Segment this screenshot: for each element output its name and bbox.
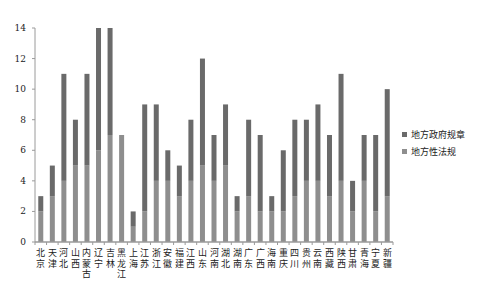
x-tick-label: 江 [152,259,161,269]
y-tick-label: 14 [15,23,27,33]
x-tick-label: 徽 [163,258,172,269]
stacked-bar-chart: 02468101214 北京天津河北山西内蒙古辽宁吉林黑龙江上海江苏浙江安徽福建… [0,0,487,295]
bar-segment-gov-regulations [246,120,251,196]
x-tick-label: 津 [48,259,57,269]
bar-segment-gov-regulations [177,166,182,197]
x-tick-label: 山 [71,248,80,258]
x-tick-label: 吉 [106,248,115,258]
legend-swatch-light [402,149,407,154]
bar-segment-local-laws [258,211,263,242]
legend-item-local-laws: 地方性法规 [402,146,456,157]
bar-segment-local-laws [246,196,251,242]
x-tick-label: 肃 [348,258,357,269]
bar-segment-gov-regulations [362,135,367,181]
x-tick-label: 西 [337,259,346,269]
bar-segment-local-laws [165,181,170,242]
bar-segment-gov-regulations [269,196,274,211]
bar-segment-gov-regulations [339,74,344,181]
bar-segment-local-laws [61,181,66,242]
bar-segment-local-laws [373,211,378,242]
x-tick-label: 西 [325,248,334,258]
x-tick-label: 新 [383,247,392,258]
x-tick-label: 河 [210,247,219,258]
bar-segment-gov-regulations [258,135,263,211]
bar-segment-gov-regulations [73,120,78,166]
bar-黑龙江 [119,135,124,242]
bars [38,28,389,242]
bar-segment-local-laws [281,211,286,242]
x-tick-label: 南 [267,258,276,269]
x-tick-label: 宁 [94,258,103,269]
x-tick-label: 江 [117,269,126,279]
bar-segment-gov-regulations [38,196,43,211]
y-tick-label: 4 [20,176,26,186]
bar-广东 [246,120,251,242]
bar-segment-gov-regulations [142,104,147,211]
x-tick-label: 川 [290,259,299,269]
bar-segment-local-laws [188,181,193,242]
x-tick-label: 西 [256,259,265,269]
bar-segment-gov-regulations [385,89,390,196]
bar-云南 [315,104,320,242]
y-tick-label: 10 [15,84,27,94]
bar-segment-gov-regulations [188,120,193,181]
bar-segment-local-laws [212,181,217,242]
y-tick-label: 8 [20,115,26,125]
bar-segment-local-laws [73,166,78,242]
bar-segment-gov-regulations [84,74,89,166]
bar-湖南 [235,196,240,242]
bar-福建 [177,166,182,242]
bar-山东 [200,59,205,242]
bar-segment-local-laws [38,211,43,242]
bar-segment-local-laws [339,181,344,242]
bar-四川 [292,120,297,242]
x-tick-label: 南 [210,258,219,269]
x-tick-label: 四 [290,248,299,258]
bar-segment-local-laws [119,135,124,242]
bar-segment-gov-regulations [235,196,240,211]
bar-segment-local-laws [200,166,205,242]
x-tick-label: 东 [244,258,253,269]
x-tick-label: 苏 [140,258,149,269]
legend: 地方政府规章 地方性法规 [402,129,465,157]
bar-segment-gov-regulations [315,104,320,180]
bar-甘肃 [350,181,355,242]
x-axis: 北京天津河北山西内蒙古辽宁吉林黑龙江上海江苏浙江安徽福建江西山东河南湖北湖南广东… [35,242,393,279]
x-tick-label: 林 [106,258,115,269]
bar-重庆 [281,150,286,242]
x-tick-label: 夏 [371,259,380,269]
bar-海南 [269,196,274,242]
x-tick-label: 湖 [221,248,230,258]
x-tick-label: 江 [186,248,195,258]
x-tick-label: 贵 [302,247,311,258]
x-tick-label: 广 [256,247,265,258]
bar-segment-local-laws [327,196,332,242]
bar-河南 [212,135,217,242]
x-tick-label: 广 [244,247,253,258]
bar-湖北 [223,104,228,242]
x-tick-label: 南 [313,258,322,269]
x-tick-label: 青 [360,247,369,258]
bar-segment-gov-regulations [131,211,136,226]
x-tick-label: 庆 [279,258,288,269]
bar-segment-gov-regulations [327,135,332,196]
x-tick-label: 福 [175,247,184,258]
y-axis: 02468101214 [15,23,35,247]
bar-segment-gov-regulations [281,150,286,211]
bar-天津 [50,166,55,242]
y-tick-label: 6 [20,145,26,155]
bar-segment-local-laws [154,181,159,242]
bar-segment-local-laws [96,150,101,242]
bar-segment-gov-regulations [223,104,228,165]
x-tick-label: 陕 [337,247,346,258]
bar-segment-gov-regulations [350,181,355,212]
bar-segment-local-laws [315,181,320,242]
bar-宁夏 [373,135,378,242]
bar-segment-local-laws [235,211,240,242]
bar-内蒙古 [84,74,89,242]
bar-segment-local-laws [142,211,147,242]
bar-segment-local-laws [223,166,228,242]
bar-河北 [61,74,66,242]
bar-广西 [258,135,263,242]
bar-segment-gov-regulations [212,135,217,181]
